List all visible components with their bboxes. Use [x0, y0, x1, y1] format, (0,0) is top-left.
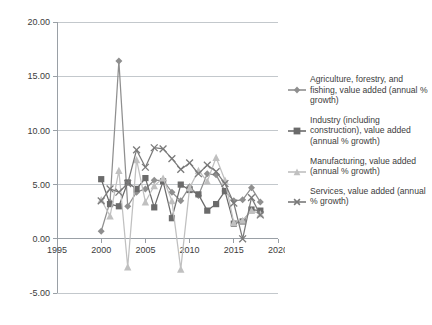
svg-text:1995: 1995 [47, 245, 67, 255]
legend-label-industry: Industry (including construction), value… [310, 115, 432, 147]
legend-item-services: Services, value added (annual % growth) [288, 186, 432, 207]
line-chart-svg: 20.0015.0010.005.000.00-5.00199520002005… [0, 0, 285, 325]
legend-item-manufacturing: Manufacturing, value added (annual % gro… [288, 156, 432, 177]
svg-text:-5.00: -5.00 [29, 288, 50, 298]
legend-marker-diamond-icon [288, 83, 306, 97]
legend-label-agriculture: Agriculture, forestry, and fishing, valu… [310, 74, 432, 106]
legend-item-agriculture: Agriculture, forestry, and fishing, valu… [288, 74, 432, 106]
legend-marker-square-icon [288, 124, 306, 138]
chart-container: 20.0015.0010.005.000.00-5.00199520002005… [0, 0, 432, 325]
svg-text:15.00: 15.00 [27, 71, 50, 81]
svg-text:2005: 2005 [135, 245, 155, 255]
svg-text:5.00: 5.00 [32, 180, 50, 190]
legend-item-industry: Industry (including construction), value… [288, 115, 432, 147]
plot-area: 20.0015.0010.005.000.00-5.00199520002005… [0, 0, 285, 325]
svg-text:10.00: 10.00 [27, 126, 50, 136]
series-triangle [98, 154, 265, 273]
series-cross [98, 144, 264, 242]
legend-marker-triangle-icon [288, 165, 306, 179]
svg-text:20.00: 20.00 [27, 17, 50, 27]
svg-text:2015: 2015 [224, 245, 244, 255]
svg-text:2020: 2020 [268, 245, 285, 255]
legend-label-manufacturing: Manufacturing, value added (annual % gro… [310, 156, 432, 177]
legend-marker-cross-icon [288, 195, 306, 209]
svg-text:0.00: 0.00 [32, 234, 50, 244]
legend-label-services: Services, value added (annual % growth) [310, 186, 432, 207]
svg-text:2000: 2000 [91, 245, 111, 255]
chart-legend: Agriculture, forestry, and fishing, valu… [288, 74, 432, 216]
